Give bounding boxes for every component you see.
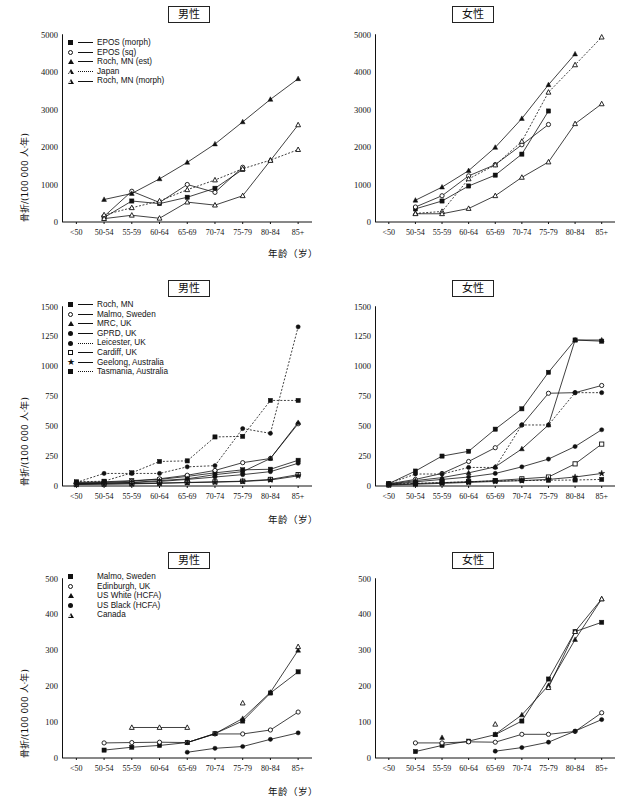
series-line	[548, 599, 601, 688]
y-tick-label: 500	[24, 574, 58, 584]
open-square-icon	[66, 350, 75, 355]
data-point	[520, 719, 524, 723]
data-point	[157, 725, 162, 730]
y-tick-label: 300	[337, 645, 371, 655]
y-tick-label: 0	[337, 753, 371, 763]
legend-item-label: Malmo, Sweden	[96, 572, 156, 582]
data-point	[268, 728, 272, 732]
y-tick-label: 200	[24, 681, 58, 691]
legend-item: US White (HCFA)	[66, 591, 161, 601]
y-tick-label: 1250	[24, 331, 58, 341]
data-point	[268, 431, 272, 435]
data-point	[296, 398, 300, 402]
data-point	[519, 175, 524, 180]
data-point	[268, 97, 273, 102]
data-point	[573, 391, 577, 395]
data-point	[241, 434, 245, 438]
legend-item-label: Canada	[96, 610, 126, 620]
legend-item-label: Japan	[96, 67, 119, 77]
fracture-incidence-figure: 男性骨折/(100 000 人·年)年龄（岁）01000200030004000…	[0, 0, 631, 800]
y-tick-label: 100	[24, 717, 58, 727]
legend-item-label: GPRD, UK	[96, 329, 137, 339]
y-tick-label: 2000	[24, 142, 58, 152]
data-point	[268, 737, 272, 741]
data-point	[241, 461, 245, 465]
data-point	[493, 465, 497, 469]
data-point	[599, 596, 604, 601]
x-tick-label: 85+	[280, 492, 316, 501]
y-tick-label: 1000	[337, 361, 371, 371]
data-point	[440, 199, 444, 203]
legend-line-sample	[78, 352, 93, 353]
filled-triangle-icon	[66, 593, 75, 598]
legend-item: MRC, UK	[66, 319, 168, 329]
series-line	[132, 647, 298, 728]
y-tick-label: 500	[337, 421, 371, 431]
x-tick-label: 85+	[280, 764, 316, 773]
data-point	[185, 459, 189, 463]
data-point	[493, 427, 497, 431]
data-point	[130, 745, 134, 749]
data-point	[240, 700, 245, 705]
data-point	[546, 109, 550, 113]
data-point	[493, 173, 497, 177]
legend-line-sample	[78, 323, 93, 324]
data-point	[102, 748, 106, 752]
legend-line-sample	[78, 314, 93, 315]
data-point	[130, 199, 134, 203]
data-point	[129, 205, 134, 210]
data-point	[520, 745, 524, 749]
data-point	[546, 732, 550, 736]
series-line	[104, 125, 298, 219]
data-point	[520, 465, 524, 469]
data-point	[600, 620, 604, 624]
y-tick-label: 300	[24, 645, 58, 655]
legend-item: Leicester, UK	[66, 338, 168, 348]
data-point	[573, 729, 577, 733]
data-point	[296, 147, 301, 152]
plot-area-row3-female	[375, 578, 617, 760]
filled-square-icon	[66, 302, 75, 307]
data-point	[185, 160, 190, 165]
data-point	[573, 478, 577, 482]
legend-item: US Black (HCFA)	[66, 601, 161, 611]
data-point	[467, 480, 471, 484]
plot-area-row1-female	[375, 34, 617, 224]
data-point	[466, 206, 471, 211]
series-line	[104, 79, 298, 200]
legend-item: EPOS (morph)	[66, 38, 164, 48]
series-line	[415, 125, 548, 208]
data-point	[185, 465, 189, 469]
data-point	[241, 426, 245, 430]
y-tick-label: 0	[337, 481, 371, 491]
y-tick-label: 250	[24, 451, 58, 461]
data-point	[546, 370, 550, 374]
data-point	[129, 725, 134, 730]
filled-triangle-icon	[66, 59, 75, 64]
y-tick-label: 750	[337, 391, 371, 401]
legend-item: ★Geelong, Australia	[66, 358, 168, 368]
data-point	[157, 176, 162, 181]
series-line	[187, 650, 298, 742]
data-point	[413, 205, 417, 209]
legend-item-label: US White (HCFA)	[96, 591, 161, 601]
series-line	[415, 111, 548, 209]
data-point	[546, 740, 550, 744]
legend-item-label: Edinburgh, UK	[96, 582, 150, 592]
legend-item-label: Roch, MN	[96, 300, 133, 310]
data-point	[600, 428, 604, 432]
data-point	[546, 478, 550, 482]
data-point	[493, 749, 497, 753]
y-tick-label: 500	[24, 421, 58, 431]
legend-line-sample	[78, 52, 93, 53]
data-point	[102, 471, 106, 475]
data-point	[440, 454, 444, 458]
data-point	[467, 449, 471, 453]
y-tick-label: 400	[337, 609, 371, 619]
legend-item: Malmo, Sweden	[66, 310, 168, 320]
data-point	[213, 464, 217, 468]
data-point	[599, 470, 605, 476]
legend-item: Roch, MN (morph)	[66, 76, 164, 86]
plot-area-row2-female	[375, 306, 617, 488]
data-point	[213, 186, 217, 190]
